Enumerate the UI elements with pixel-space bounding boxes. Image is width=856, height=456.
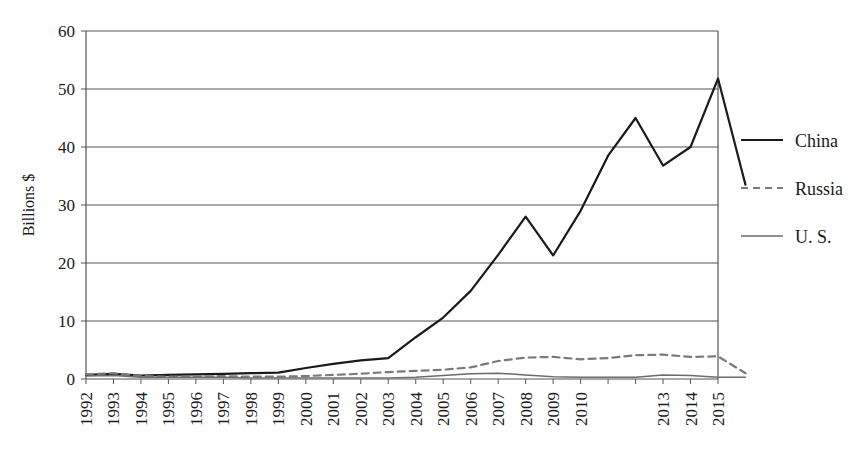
x-tick-label: 2001 [324,392,343,426]
x-tick-label: 1997 [214,392,233,427]
x-tick-label: 2014 [682,392,701,427]
legend-label-china: China [795,131,838,151]
y-tick-label: 10 [58,312,75,331]
x-tick-label: 1998 [242,392,261,426]
y-tick-label: 20 [58,254,75,273]
line-chart: 0102030405060 19921993199419951996199719… [0,0,856,456]
legend-label-u-s: U. S. [795,227,832,247]
x-tick-label: 2015 [709,392,728,426]
chart-background [0,0,856,456]
x-tick-label: 2003 [379,392,398,426]
x-tick-label: 2006 [462,392,481,426]
x-tick-label: 1995 [159,392,178,426]
y-axis-title: Billions $ [20,174,37,237]
x-tick-label: 2007 [489,392,508,427]
y-tick-label: 30 [58,196,75,215]
x-tick-label: 2008 [517,392,536,426]
y-tick-label: 40 [58,138,75,157]
chart-container: 0102030405060 19921993199419951996199719… [0,0,856,456]
y-tick-label: 50 [58,80,75,99]
x-tick-label: 1999 [269,392,288,426]
x-tick-label: 2004 [407,392,426,427]
y-tick-label: 60 [58,22,75,41]
legend-label-russia: Russia [795,179,843,199]
x-tick-label: 1993 [104,392,123,426]
x-tick-label: 1994 [132,392,151,427]
x-tick-label: 2013 [654,392,673,426]
x-tick-label: 1996 [187,392,206,426]
x-tick-label: 2010 [572,392,591,426]
x-tick-label: 2009 [544,392,563,426]
x-tick-label: 2005 [434,392,453,426]
x-tick-label: 1992 [77,392,96,426]
x-tick-label: 2000 [297,392,316,426]
y-tick-label: 0 [67,370,76,389]
x-tick-label: 2002 [352,392,371,426]
